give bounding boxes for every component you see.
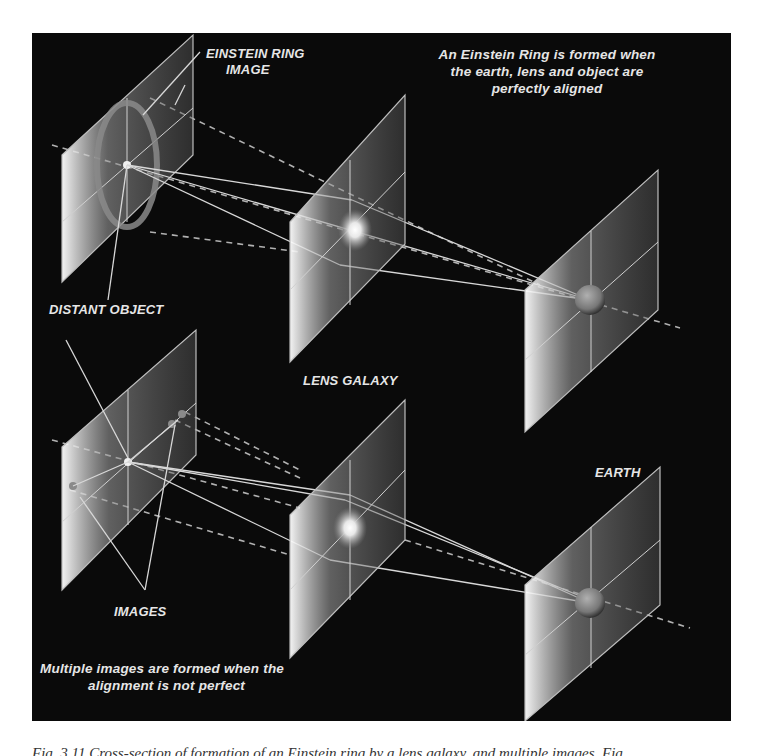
figure-caption: Fig. 3.11 Cross-section of formation of … (32, 742, 732, 756)
einstein-ring-label: EINSTEIN RING IMAGE (206, 46, 305, 78)
einstein-ring-label-line1: EINSTEIN RING (206, 46, 305, 62)
source-plane-aligned (62, 35, 193, 282)
images-label: IMAGES (114, 604, 166, 620)
einstein-ring-label-line2: IMAGE (206, 62, 305, 78)
observer-plane-aligned (525, 170, 658, 432)
observer-plane-misaligned (525, 467, 660, 721)
aligned-note-line3: perfectly aligned (402, 80, 692, 97)
aligned-note: An Einstein Ring is formed when the eart… (402, 46, 692, 97)
lens-plane-misaligned (290, 400, 405, 658)
distant-object-label: DISTANT OBJECT (49, 302, 164, 318)
source-plane-misaligned (62, 330, 196, 590)
earth-label: EARTH (595, 465, 641, 481)
lens-galaxy-label: LENS GALAXY (303, 373, 398, 389)
lens-galaxy-2 (333, 507, 367, 549)
aligned-note-line1: An Einstein Ring is formed when (402, 46, 692, 63)
lens-plane-aligned (290, 95, 405, 362)
lensed-image-2 (178, 410, 186, 418)
earth-sphere-2 (575, 588, 605, 618)
misaligned-note-line2: alignment is not perfect (40, 677, 284, 694)
misaligned-note: Multiple images are formed when the alig… (40, 660, 284, 694)
lens-galaxy (338, 209, 372, 251)
misaligned-note-line1: Multiple images are formed when the (40, 660, 284, 677)
earth-sphere (575, 285, 605, 315)
aligned-note-line2: the earth, lens and object are (402, 63, 692, 80)
gravitational-lensing-figure: EINSTEIN RING IMAGE An Einstein Ring is … (32, 33, 731, 721)
